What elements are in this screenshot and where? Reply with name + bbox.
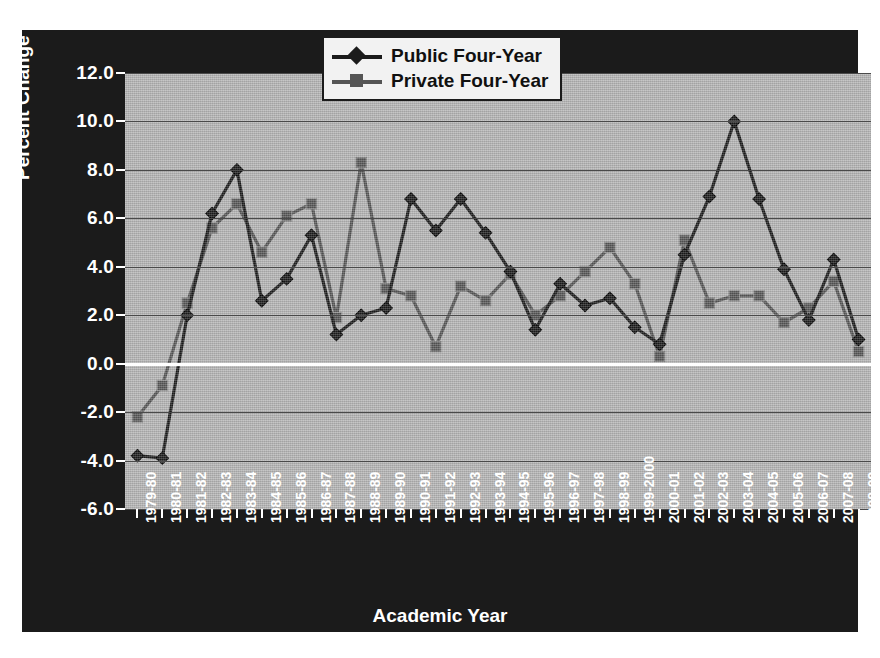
- x-tick-mark: [758, 509, 760, 518]
- y-axis-title: Percent Change in Inflation-Adjusted Dol…: [12, 0, 34, 180]
- y-tick-label: 8.0: [36, 160, 114, 179]
- x-tick-label: 1997-98: [591, 472, 607, 523]
- y-tick-label: -6.0: [36, 499, 114, 518]
- x-tick-mark: [858, 509, 860, 518]
- y-tick-label: -4.0: [36, 451, 114, 470]
- y-tick-mark: [116, 169, 125, 171]
- x-tick-label: 1995-96: [541, 472, 557, 523]
- square-marker: [456, 281, 466, 291]
- chart-plate: Percent Change in Inflation-Adjusted Dol…: [22, 30, 858, 632]
- series-line: [137, 163, 858, 417]
- y-tick-label: 0.0: [36, 354, 114, 373]
- square-marker: [754, 291, 764, 301]
- square-marker: [729, 291, 739, 301]
- square-marker: [630, 279, 640, 289]
- x-tick-label: 2008-09: [865, 472, 880, 523]
- square-marker: [232, 199, 242, 209]
- x-tick-mark: [609, 509, 611, 518]
- x-axis-title: Academic Year: [22, 605, 858, 627]
- x-tick-label: 1988-89: [367, 472, 383, 523]
- chart-figure: Percent Change in Inflation-Adjusted Dol…: [0, 0, 880, 658]
- x-tick-label: 2005-06: [790, 472, 806, 523]
- square-marker: [431, 342, 441, 352]
- legend-label-public: Public Four-Year: [391, 45, 542, 67]
- x-tick-mark: [684, 509, 686, 518]
- gridline: [125, 412, 871, 413]
- square-marker: [132, 412, 142, 422]
- x-tick-label: 1987-88: [342, 472, 358, 523]
- y-tick-mark: [116, 217, 125, 219]
- square-marker: [356, 157, 366, 167]
- x-tick-mark: [435, 509, 437, 518]
- x-tick-mark: [360, 509, 362, 518]
- diamond-marker: [156, 452, 168, 464]
- x-tick-mark: [136, 509, 138, 518]
- x-tick-label: 2001-02: [691, 472, 707, 523]
- x-tick-label: 1993-94: [492, 472, 508, 523]
- x-tick-mark: [783, 509, 785, 518]
- x-tick-label: 2003-04: [740, 472, 756, 523]
- x-tick-label: 1990-91: [417, 472, 433, 523]
- diamond-marker-icon: [332, 48, 382, 64]
- x-tick-mark: [186, 509, 188, 518]
- x-tick-mark: [559, 509, 561, 518]
- square-marker: [157, 380, 167, 390]
- y-tick-label: 12.0: [36, 63, 114, 82]
- gridline: [125, 121, 871, 122]
- x-tick-label: 1981-82: [193, 472, 209, 523]
- y-tick-mark: [116, 363, 125, 365]
- x-tick-label: 1999-2000: [641, 456, 657, 523]
- gridline: [125, 170, 871, 171]
- x-tick-label: 1984-85: [268, 472, 284, 523]
- square-marker: [281, 211, 291, 221]
- y-tick-mark: [116, 508, 125, 510]
- y-tick-label: 2.0: [36, 305, 114, 324]
- legend-item-private: Private Four-Year: [332, 68, 548, 93]
- y-tick-label: 10.0: [36, 111, 114, 130]
- y-tick-mark: [116, 460, 125, 462]
- x-tick-mark: [833, 509, 835, 518]
- x-tick-mark: [236, 509, 238, 518]
- x-tick-mark: [460, 509, 462, 518]
- x-tick-mark: [286, 509, 288, 518]
- square-marker: [580, 266, 590, 276]
- x-tick-label: 1985-86: [293, 472, 309, 523]
- x-tick-mark: [634, 509, 636, 518]
- legend-item-public: Public Four-Year: [332, 43, 548, 68]
- legend-label-private: Private Four-Year: [391, 70, 548, 92]
- x-tick-label: 2007-08: [840, 472, 856, 523]
- y-tick-mark: [116, 72, 125, 74]
- x-tick-label: 1989-90: [392, 472, 408, 523]
- x-tick-mark: [410, 509, 412, 518]
- x-tick-mark: [509, 509, 511, 518]
- diamond-marker: [778, 263, 790, 275]
- plot-area: [125, 73, 871, 509]
- y-tick-label: -2.0: [36, 402, 114, 421]
- square-marker: [704, 298, 714, 308]
- x-tick-label: 1992-93: [467, 472, 483, 523]
- x-tick-label: 1979-80: [143, 472, 159, 523]
- square-marker: [779, 317, 789, 327]
- diamond-marker: [380, 302, 392, 314]
- square-marker: [257, 247, 267, 257]
- x-tick-mark: [161, 509, 163, 518]
- x-tick-mark: [211, 509, 213, 518]
- x-tick-label: 1980-81: [168, 472, 184, 523]
- x-tick-mark: [808, 509, 810, 518]
- x-tick-mark: [733, 509, 735, 518]
- x-tick-label: 2006-07: [815, 472, 831, 523]
- square-marker: [605, 242, 615, 252]
- y-tick-mark: [116, 120, 125, 122]
- y-tick-mark: [116, 266, 125, 268]
- x-tick-label: 2000-01: [666, 472, 682, 523]
- gridline: [125, 267, 871, 268]
- x-tick-label: 1996-97: [566, 472, 582, 523]
- square-marker: [654, 351, 664, 361]
- square-marker-icon: [332, 73, 382, 89]
- diamond-marker: [828, 253, 840, 265]
- x-tick-mark: [534, 509, 536, 518]
- x-tick-label: 1983-84: [243, 472, 259, 523]
- x-tick-mark: [335, 509, 337, 518]
- x-tick-label: 1998-99: [616, 472, 632, 523]
- chart-legend: Public Four-Year Private Four-Year: [322, 36, 562, 101]
